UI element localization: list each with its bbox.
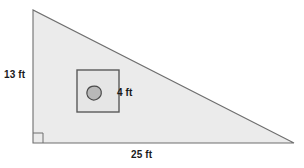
pebble-blob-icon — [87, 86, 101, 100]
right-triangle-shape — [33, 10, 294, 143]
geometry-figure: 13 ft 4 ft 25 ft — [0, 0, 304, 168]
height-dimension-label: 13 ft — [4, 70, 25, 80]
square-side-dimension-label: 4 ft — [117, 88, 132, 98]
figure-canvas — [0, 0, 304, 168]
base-dimension-label: 25 ft — [131, 150, 152, 160]
